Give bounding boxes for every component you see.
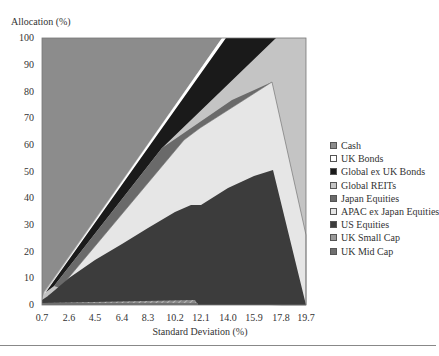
divider (0, 345, 436, 346)
legend-item-apac-ex-japan: APAC ex Japan Equities (330, 205, 439, 218)
legend-item-uk-small-cap: UK Small Cap (330, 231, 439, 244)
legend-item-cash: Cash (330, 139, 439, 152)
legend-label: Cash (341, 140, 361, 151)
legend: Cash UK Bonds Global ex UK Bonds Global … (330, 139, 439, 258)
x-tick: 12.1 (186, 312, 216, 323)
legend-swatch-icon (330, 142, 337, 149)
legend-item-us-equities: US Equities (330, 218, 439, 231)
legend-swatch-icon (330, 182, 337, 189)
legend-item-uk-mid-cap: UK Mid Cap (330, 245, 439, 258)
legend-item-japan-equities: Japan Equities (330, 192, 439, 205)
legend-swatch-icon (330, 221, 337, 228)
legend-label: Global REITs (341, 180, 396, 191)
x-tick: 8.3 (133, 312, 163, 323)
legend-label: Global ex UK Bonds (341, 166, 425, 177)
legend-swatch-icon (330, 195, 337, 202)
legend-swatch-icon (330, 155, 337, 162)
x-tick: 19.7 (291, 312, 321, 323)
legend-label: UK Small Cap (341, 232, 400, 243)
legend-swatch-icon (330, 168, 337, 175)
x-tick: 0.7 (27, 312, 57, 323)
legend-label: US Equities (341, 219, 389, 230)
legend-label: APAC ex Japan Equities (341, 206, 439, 217)
legend-item-uk-bonds: UK Bonds (330, 152, 439, 165)
legend-item-global-ex-uk-bonds: Global ex UK Bonds (330, 165, 439, 178)
legend-swatch-icon (330, 248, 337, 255)
legend-label: Japan Equities (341, 193, 399, 204)
legend-item-global-reits: Global REITs (330, 179, 439, 192)
legend-swatch-icon (330, 208, 337, 215)
legend-label: UK Bonds (341, 153, 384, 164)
x-tick: 15.9 (239, 312, 269, 323)
legend-label: UK Mid Cap (341, 246, 393, 257)
x-axis-title: Standard Deviation (%) (120, 326, 280, 337)
legend-swatch-icon (330, 234, 337, 241)
x-tick: 4.5 (80, 312, 110, 323)
